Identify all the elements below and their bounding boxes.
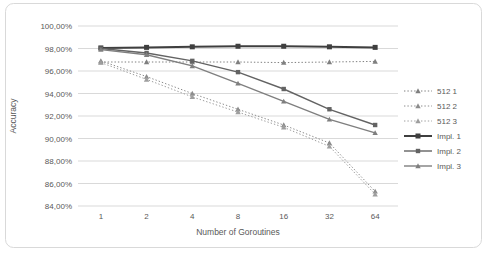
- series-marker-square: [416, 149, 420, 153]
- chart-window: 100,00%98,00%96,00%94,00%92,00%90,00%88,…: [0, 0, 487, 266]
- x-tick-label: 16: [279, 212, 288, 221]
- legend-label: Impl. 1: [437, 132, 462, 141]
- y-tick-label: 98,00%: [45, 45, 72, 54]
- x-tick-label: 1: [99, 212, 104, 221]
- series-marker-square: [190, 59, 194, 63]
- series-marker-square: [190, 44, 195, 49]
- chart-frame-border: [6, 4, 482, 248]
- series-marker-square: [373, 45, 378, 50]
- x-tick-label: 2: [144, 212, 149, 221]
- legend-label: 512 2: [437, 102, 458, 111]
- y-tick-label: 88,00%: [45, 157, 72, 166]
- series-marker-square: [327, 44, 332, 49]
- legend-label: 512 3: [437, 117, 458, 126]
- y-tick-label: 96,00%: [45, 67, 72, 76]
- series-marker-square: [144, 45, 149, 50]
- legend-label: Impl. 2: [437, 147, 462, 156]
- x-tick-label: 4: [190, 212, 195, 221]
- series-marker-square: [236, 44, 241, 49]
- y-axis-title: Accuracy: [8, 98, 18, 134]
- legend-label: 512 1: [437, 87, 458, 96]
- series-marker-square: [416, 134, 421, 139]
- y-tick-label: 94,00%: [45, 90, 72, 99]
- x-axis-title: Number of Goroutines: [196, 227, 280, 237]
- x-tick-label: 64: [371, 212, 380, 221]
- accuracy-line-chart: 100,00%98,00%96,00%94,00%92,00%90,00%88,…: [0, 0, 487, 266]
- y-axis-tick-labels: 100,00%98,00%96,00%94,00%92,00%90,00%88,…: [40, 22, 72, 211]
- y-tick-label: 100,00%: [40, 22, 72, 31]
- series-marker-square: [373, 123, 377, 127]
- x-tick-label: 32: [325, 212, 334, 221]
- y-tick-label: 86,00%: [45, 180, 72, 189]
- x-tick-label: 8: [236, 212, 241, 221]
- series-marker-square: [282, 87, 286, 91]
- series-marker-square: [236, 70, 240, 74]
- series-marker-square: [281, 44, 286, 49]
- series-marker-square: [327, 107, 331, 111]
- y-tick-label: 90,00%: [45, 135, 72, 144]
- legend-label: Impl. 3: [437, 162, 462, 171]
- y-tick-label: 92,00%: [45, 112, 72, 121]
- y-tick-label: 84,00%: [45, 202, 72, 211]
